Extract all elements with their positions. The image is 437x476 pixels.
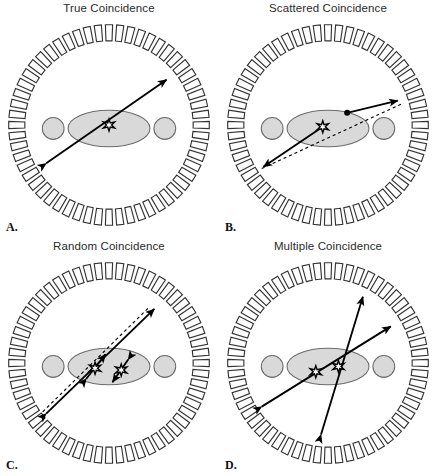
detector-block <box>72 267 84 284</box>
detector-block <box>72 29 84 46</box>
detector-block <box>412 121 428 128</box>
detector-block <box>353 267 365 284</box>
panel-a-title: True Coincidence <box>0 2 218 14</box>
detector-block <box>105 25 112 41</box>
detector-block <box>134 267 146 284</box>
phantom-left-arm <box>42 356 64 378</box>
detector-block <box>187 326 204 338</box>
detector-block <box>334 446 342 463</box>
panel-true-coincidence: True Coincidence A. <box>0 0 218 238</box>
detector-block <box>344 444 354 461</box>
detector-block <box>94 446 102 463</box>
panel-d-letter: D. <box>225 458 237 473</box>
detector-block <box>232 388 249 400</box>
detector-block <box>232 326 249 338</box>
detector-block <box>115 25 123 42</box>
detector-block <box>229 141 246 151</box>
panel-c-letter: C. <box>6 458 18 473</box>
detector-block <box>228 348 245 356</box>
detector-block <box>229 99 246 109</box>
phantom-left-arm <box>261 356 283 378</box>
detector-block <box>94 208 102 225</box>
detector-block <box>13 388 30 400</box>
detector-block <box>115 263 123 280</box>
detector-block <box>291 267 303 284</box>
detector-block <box>406 88 423 100</box>
detector-block <box>411 348 428 356</box>
detector-block <box>302 444 312 461</box>
detector-block <box>190 99 207 109</box>
detector-block <box>228 359 244 366</box>
detector-block <box>9 131 26 139</box>
detector-block <box>409 337 426 347</box>
detector-block <box>192 110 209 118</box>
phantom-left-arm <box>261 118 283 140</box>
detector-block <box>10 99 27 109</box>
detector-block <box>193 121 209 128</box>
detector-block <box>190 379 207 389</box>
detector-block <box>9 110 26 118</box>
detector-block <box>313 25 321 42</box>
detector-block <box>115 208 123 225</box>
scanner-diagram-a <box>0 14 218 236</box>
detector-block <box>187 150 204 162</box>
detector-block <box>105 263 112 279</box>
event-layer <box>46 80 166 164</box>
detector-block <box>9 121 25 128</box>
detector-block <box>9 359 25 366</box>
detector-block <box>302 26 312 43</box>
panel-c-title: Random Coincidence <box>0 240 218 252</box>
detector-block <box>232 150 249 162</box>
panel-b-title: Scattered Coincidence <box>219 2 437 14</box>
detector-block <box>406 150 423 162</box>
phantom-right-arm <box>154 356 176 378</box>
detector-block <box>13 150 30 162</box>
detector-block <box>324 25 331 41</box>
detector-block <box>353 441 365 458</box>
detector-block <box>72 441 84 458</box>
detector-block <box>412 359 428 366</box>
detector-block <box>411 110 428 118</box>
detector-block <box>302 264 312 281</box>
detector-block <box>291 441 303 458</box>
detector-block <box>324 263 331 279</box>
phantom-torso <box>287 348 369 385</box>
detector-block <box>409 379 426 389</box>
detector-block <box>229 379 246 389</box>
detector-block <box>193 359 209 366</box>
detector-block <box>291 29 303 46</box>
detector-block <box>313 263 321 280</box>
phantom-right-arm <box>373 356 395 378</box>
detector-block <box>313 446 321 463</box>
detector-block <box>134 203 146 220</box>
pet-coincidence-figure: True Coincidence A. Scattered Coincidenc… <box>0 0 437 476</box>
detector-block <box>192 369 209 377</box>
phantom-right-arm <box>373 118 395 140</box>
detector-block <box>228 369 245 377</box>
detector-block <box>406 388 423 400</box>
photon-path <box>347 101 398 113</box>
detector-block <box>411 369 428 377</box>
detector-block <box>192 348 209 356</box>
detector-block <box>187 88 204 100</box>
detector-block <box>10 337 27 347</box>
phantom-left-arm <box>42 118 64 140</box>
panel-a-letter: A. <box>6 220 18 235</box>
detector-block <box>406 326 423 338</box>
detector-block <box>353 203 365 220</box>
detector-block <box>83 26 93 43</box>
detector-block <box>334 208 342 225</box>
detector-block <box>9 348 26 356</box>
scanner-diagram-c <box>0 252 218 474</box>
detector-block <box>115 446 123 463</box>
detector-block <box>228 131 245 139</box>
detector-block <box>190 141 207 151</box>
scanner-diagram-d <box>219 252 437 474</box>
detector-block <box>409 99 426 109</box>
detector-block <box>334 263 342 280</box>
detector-block <box>125 444 135 461</box>
detector-block <box>190 337 207 347</box>
detector-block <box>125 26 135 43</box>
detector-block <box>125 264 135 281</box>
detector-block <box>313 208 321 225</box>
